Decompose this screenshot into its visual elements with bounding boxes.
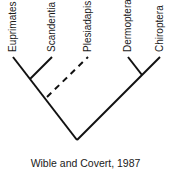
branch-dermoptera bbox=[128, 57, 142, 75]
branch-root-euprimates bbox=[13, 57, 77, 140]
taxon-label-scandentia: Scandentia bbox=[46, 2, 57, 52]
cladogram: Euprimates Scandentia Plesiadapis Dermop… bbox=[0, 0, 171, 176]
branch-plesiadapis-dashed bbox=[47, 57, 88, 97]
taxon-label-dermoptera: Dermoptera bbox=[122, 0, 133, 52]
taxon-label-chiroptera: Chiroptera bbox=[154, 5, 165, 52]
taxon-label-euprimates: Euprimates bbox=[7, 1, 18, 52]
figure-caption: Wible and Covert, 1987 bbox=[0, 157, 171, 169]
branch-scandentia bbox=[30, 57, 52, 79]
branch-root-chiroptera bbox=[77, 57, 160, 140]
taxon-label-plesiadapis: Plesiadapis bbox=[82, 1, 93, 52]
